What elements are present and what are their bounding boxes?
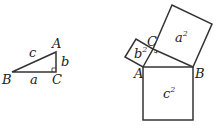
triangle-side-c: c <box>29 45 37 60</box>
triangle-side-a: a <box>30 72 38 87</box>
triangle-vertex-b: B <box>1 72 12 87</box>
label-b-squared: b2 <box>134 45 147 61</box>
figure-vertex-c: C <box>147 34 157 49</box>
triangle-side-b: b <box>61 54 69 69</box>
label-a-squared: a2 <box>175 29 188 45</box>
figure-vertex-b: B <box>194 66 205 81</box>
triangle-vertex-c: C <box>52 72 62 87</box>
label-c-squared: c2 <box>163 85 175 101</box>
diagram-canvas: B C A c a b A B C a2 b2 c2 <box>0 0 217 134</box>
squares-figure <box>125 5 212 120</box>
figure-vertex-a: A <box>133 66 143 81</box>
triangle-vertex-a: A <box>51 36 61 51</box>
